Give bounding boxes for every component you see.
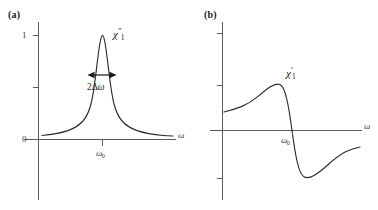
panel-a-curve-chi-double-prime	[42, 35, 173, 136]
panel-a-linewidth-arrow-head-right	[110, 72, 117, 78]
panel-a-x-axis-label: ω	[178, 131, 184, 140]
panel-b-omega0-sub: 0	[287, 140, 290, 146]
panel-b-chi-sub: 1	[292, 72, 296, 81]
panel-a-linewidth-arrow-head-left	[88, 72, 95, 78]
panel-a-y-label-0: 0	[22, 135, 27, 144]
figure-container: (a) 1 0 ω0 ω χ″1 2	[0, 0, 378, 210]
panel-a: (a) 1 0 ω0 ω χ″1 2	[0, 0, 190, 210]
panel-b: (b) ω0 ω χ′1	[190, 0, 378, 210]
panel-a-curve-label: χ″1	[113, 27, 124, 41]
panel-b-curve-label: χ′1	[286, 66, 296, 80]
linewidth-omega: ω	[98, 82, 105, 92]
panel-a-x-tick-label-omega0: ω0	[96, 149, 105, 159]
panel-a-y-label-1: 1	[22, 31, 27, 40]
panel-b-plot	[190, 0, 378, 210]
panel-a-linewidth-label: 2Δω	[87, 83, 105, 93]
panel-a-omega0-sub: 0	[102, 153, 105, 159]
panel-b-x-axis-label: ω	[364, 122, 370, 131]
panel-b-x-tick-label-omega0: ω0	[281, 136, 290, 146]
panel-a-plot	[0, 0, 190, 210]
panel-a-chi-sub: 1	[121, 33, 125, 42]
